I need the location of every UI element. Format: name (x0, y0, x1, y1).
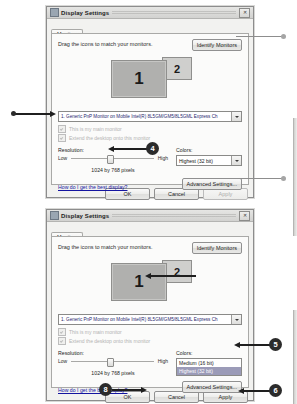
callout-line-monitor-select (14, 113, 52, 115)
tabstrip: Monitor (47, 222, 253, 236)
callout-arrowhead-8 (141, 387, 147, 393)
resolution-slider-track[interactable] (71, 361, 154, 362)
hint-row: Drag the icons to match your monitors. I… (58, 242, 242, 254)
callout-line-identify (236, 36, 284, 37)
callout-dot-monitor-select (11, 111, 16, 116)
resolution-value-text: 1024 by 768 pixels (58, 167, 168, 173)
colors-select-value: Highest (32 bit) (179, 158, 213, 164)
colors-label: Colors: (176, 350, 242, 356)
display-settings-dialog-top: Display Settings ✕ Monitor Drag the icon… (46, 6, 254, 198)
screenshot-page: Display Settings ✕ Monitor Drag the icon… (0, 0, 297, 404)
callout-line-advanced (240, 178, 284, 179)
monitor-select-value: 1. Generic PnP Monitor on Mobile Intel(R… (61, 317, 218, 322)
monitor-panel: Drag the icons to match your monitors. I… (51, 33, 249, 185)
identify-monitors-button[interactable]: Identify Monitors (192, 39, 242, 51)
window-title: Display Settings (61, 213, 109, 219)
resolution-slider-track[interactable] (71, 158, 154, 159)
window-title: Display Settings (61, 10, 109, 16)
drag-hint-text: Drag the icons to match your monitors. (58, 242, 152, 250)
titlebar: Display Settings ✕ (47, 210, 253, 222)
identify-monitors-button[interactable]: Identify Monitors (192, 242, 242, 254)
callout-arrowhead-monitor2 (145, 273, 151, 279)
display-icon (50, 8, 59, 17)
titlebar-filler (112, 11, 236, 15)
callout-arrowhead-6 (238, 388, 244, 394)
callout-arrowhead-4 (108, 146, 114, 152)
monitor-icon-1[interactable]: 1 (111, 263, 167, 301)
resolution-label: Resolution: (58, 350, 168, 356)
monitor-preview-area: 2 1 (58, 258, 242, 310)
callout-dot-advanced (281, 176, 286, 181)
callout-line-monitor2 (151, 275, 196, 277)
colors-group: Colors: Highest (32 bit) Medium (16 bit)… (176, 350, 242, 376)
monitor-panel: Drag the icons to match your monitors. I… (51, 236, 249, 388)
titlebar: Display Settings ✕ (47, 7, 253, 19)
main-monitor-checkbox[interactable] (58, 125, 66, 133)
display-settings-dialog-bottom: Display Settings ✕ Monitor Drag the icon… (46, 209, 254, 401)
monitor-preview-area: 2 1 (58, 55, 242, 107)
colors-option-highest[interactable]: Highest (32 bit) (177, 367, 241, 375)
resolution-slider-thumb[interactable] (107, 358, 114, 367)
monitor-select-combo[interactable]: 1. Generic PnP Monitor on Mobile Intel(R… (58, 111, 242, 122)
callout-line-5 (240, 344, 270, 346)
callout-marker-5: 5 (269, 338, 282, 351)
colors-label: Colors: (176, 147, 242, 153)
monitor-select-combo[interactable]: 1. Generic PnP Monitor on Mobile Intel(R… (58, 314, 242, 325)
window-buttons: ✕ (239, 211, 250, 221)
extend-desktop-label: Extend the desktop onto this monitor (69, 135, 150, 141)
resolution-value-text: 1024 by 768 pixels (58, 370, 168, 376)
callout-arrowhead-5 (234, 342, 240, 348)
colors-group: Colors: Highest (32 bit) (176, 147, 242, 173)
slider-high-label: High (158, 358, 168, 364)
resolution-slider-thumb[interactable] (107, 155, 114, 164)
main-monitor-checkbox-row[interactable]: This is my main monitor (58, 328, 242, 336)
slider-high-label: High (158, 155, 168, 161)
tabstrip: Monitor (47, 19, 253, 33)
callout-marker-6: 6 (269, 384, 282, 397)
page-edge-strip-bottom (293, 310, 297, 404)
close-icon[interactable]: ✕ (239, 211, 250, 221)
advanced-settings-button[interactable]: Advanced Settings... (182, 178, 242, 190)
resolution-colors-block: Resolution: Low High 1024 by 768 pixels … (58, 350, 242, 376)
extend-desktop-checkbox[interactable] (58, 337, 66, 345)
colors-select-combo[interactable]: Highest (32 bit) (176, 155, 242, 166)
titlebar-filler (112, 214, 236, 218)
help-advanced-row: How do I get the best display? Advanced … (58, 178, 242, 190)
chevron-down-icon[interactable] (231, 112, 241, 121)
resolution-group: Resolution: Low High 1024 by 768 pixels (58, 350, 168, 376)
resolution-slider-row[interactable]: Low High (58, 358, 168, 364)
chevron-down-icon[interactable] (231, 156, 241, 165)
slider-low-label: Low (58, 155, 67, 161)
drag-hint-text: Drag the icons to match your monitors. (58, 39, 152, 47)
resolution-slider-row[interactable]: Low High (58, 155, 168, 161)
callout-dot-identify (281, 34, 286, 39)
extend-desktop-checkbox-row[interactable]: Extend the desktop onto this monitor (58, 337, 242, 345)
extend-desktop-checkbox[interactable] (58, 134, 66, 142)
main-monitor-label: This is my main monitor (69, 126, 122, 132)
slider-low-label: Low (58, 358, 67, 364)
extend-desktop-label: Extend the desktop onto this monitor (69, 338, 150, 344)
callout-marker-4: 4 (146, 142, 159, 155)
colors-dropdown-list: Medium (16 bit) Highest (32 bit) (176, 359, 242, 376)
main-monitor-checkbox-row[interactable]: This is my main monitor (58, 125, 242, 133)
display-icon (50, 211, 59, 220)
callout-marker-8: 8 (99, 383, 112, 396)
window-buttons: ✕ (239, 8, 250, 18)
main-monitor-label: This is my main monitor (69, 329, 122, 335)
chevron-down-icon[interactable] (231, 315, 241, 324)
monitor-icon-1[interactable]: 1 (111, 60, 167, 98)
help-advanced-row: How do I get the best display? Advanced … (58, 381, 242, 393)
page-edge-strip-top (293, 118, 297, 236)
colors-option-medium[interactable]: Medium (16 bit) (177, 359, 241, 367)
best-display-link[interactable]: How do I get the best display? (58, 184, 128, 190)
callout-line-6 (244, 390, 270, 392)
extend-desktop-checkbox-row[interactable]: Extend the desktop onto this monitor (58, 134, 242, 142)
monitor-select-value: 1. Generic PnP Monitor on Mobile Intel(R… (61, 114, 218, 119)
hint-row: Drag the icons to match your monitors. I… (58, 39, 242, 51)
main-monitor-checkbox[interactable] (58, 328, 66, 336)
callout-line-4 (114, 148, 150, 150)
callout-arrowhead-monitor-select (50, 111, 56, 117)
advanced-settings-button[interactable]: Advanced Settings... (182, 381, 242, 393)
close-icon[interactable]: ✕ (239, 8, 250, 18)
callout-line-8 (112, 389, 142, 391)
